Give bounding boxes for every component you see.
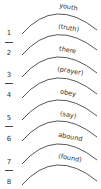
divider-dash xyxy=(5,126,13,127)
number-7: 7 xyxy=(5,159,13,166)
number-4: 4 xyxy=(5,92,13,99)
word-arc-diagram: 1 2 3 4 5 6 7 8 youth (truth) there (pra… xyxy=(0,0,101,189)
number-2: 2 xyxy=(5,50,13,57)
number-1: 1 xyxy=(5,30,13,37)
number-5: 5 xyxy=(5,115,13,122)
arc-8 xyxy=(22,165,97,185)
number-3: 3 xyxy=(5,72,13,79)
divider-dash xyxy=(5,42,13,43)
number-6: 6 xyxy=(5,136,13,143)
divider-dash xyxy=(5,170,13,171)
number-8: 8 xyxy=(5,179,13,186)
arc-lines xyxy=(0,0,101,189)
divider-dash xyxy=(5,83,13,84)
